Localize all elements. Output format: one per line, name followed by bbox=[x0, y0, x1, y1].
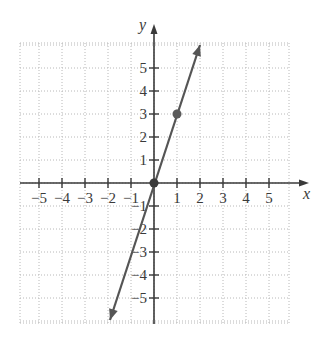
y-tick-label: 2 bbox=[140, 129, 148, 145]
x-tick-label: −3 bbox=[77, 190, 93, 206]
axes bbox=[20, 24, 309, 324]
x-tick-label: 3 bbox=[219, 190, 227, 206]
x-tick-label: 5 bbox=[265, 190, 273, 206]
x-tick-label: 2 bbox=[196, 190, 204, 206]
arrow-head-up-icon bbox=[192, 45, 201, 57]
x-tick-label: 1 bbox=[173, 190, 181, 206]
x-tick-label: −2 bbox=[100, 190, 116, 206]
y-tick-label: −5 bbox=[131, 290, 147, 306]
y-axis-arrow-icon bbox=[151, 24, 158, 34]
x-tick-label: 4 bbox=[242, 190, 250, 206]
x-axis-label: x bbox=[302, 185, 310, 202]
y-tick-label: 4 bbox=[140, 83, 148, 99]
data-point bbox=[173, 110, 182, 119]
y-axis-label: y bbox=[137, 16, 147, 34]
arrow-head-down-icon bbox=[109, 308, 118, 320]
y-tick-label: −4 bbox=[131, 267, 147, 283]
x-tick-label: −4 bbox=[54, 190, 70, 206]
x-tick-label: −5 bbox=[31, 190, 47, 206]
y-tick-label: 1 bbox=[140, 152, 148, 168]
y-tick-label: 5 bbox=[140, 60, 148, 76]
data-point bbox=[150, 179, 159, 188]
coordinate-plane: −5−4−3−2−112345−5−4−3−2−112345 x y bbox=[0, 0, 329, 347]
y-tick-label: 3 bbox=[140, 106, 148, 122]
